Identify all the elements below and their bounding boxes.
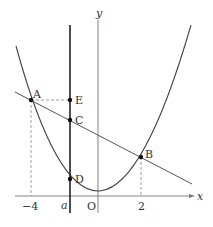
origin-label: O: [87, 200, 96, 213]
point-b: [139, 155, 143, 159]
x-axis: [15, 194, 195, 198]
tick-label-minus-4: −4: [22, 200, 38, 213]
label-e: E: [75, 94, 83, 107]
point-d: [68, 177, 72, 181]
parabola-curve: [16, 25, 191, 191]
label-c: C: [75, 114, 83, 127]
label-b: B: [145, 148, 153, 161]
graph-canvas: A E C D B x y O −4 a 2: [0, 0, 213, 227]
point-c: [68, 118, 72, 122]
x-axis-label: x: [197, 190, 204, 203]
label-d: D: [75, 173, 84, 186]
point-e: [68, 98, 72, 102]
tick-label-a: a: [61, 199, 68, 212]
line-ab: [15, 92, 192, 184]
tick-label-2: 2: [138, 200, 145, 213]
y-axis-label: y: [95, 7, 103, 20]
label-a: A: [32, 88, 42, 101]
